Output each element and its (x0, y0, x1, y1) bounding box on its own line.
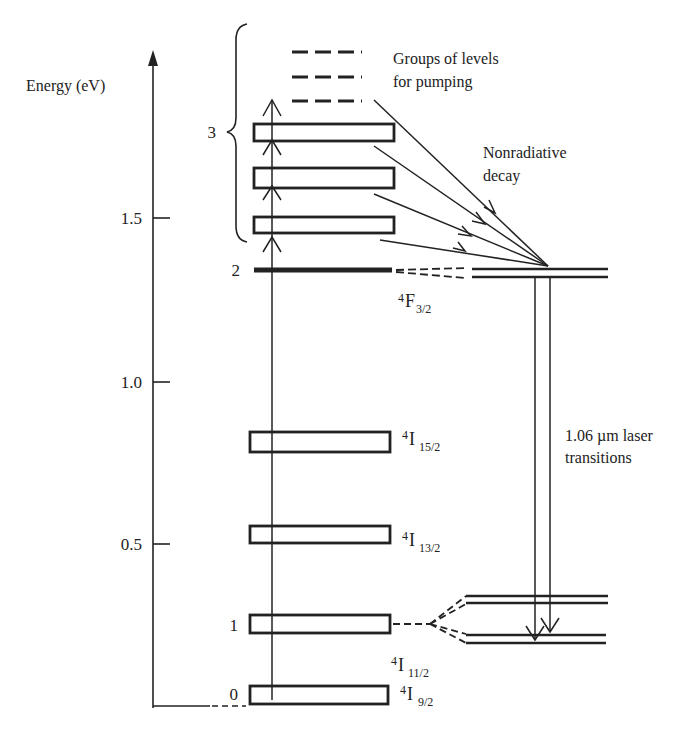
level-1-band (250, 615, 390, 633)
level-i13-sub: 13/2 (419, 541, 440, 555)
level-1-split-dashes (393, 596, 466, 643)
level-1-number: 1 (230, 616, 239, 635)
level-2-split-lines (472, 269, 608, 277)
level-2-term-letter: F (405, 291, 415, 311)
level-1-sub: 11/2 (408, 666, 429, 680)
level-i13-sup: 4 (402, 529, 408, 543)
laser-label-line1: 1.06 µm laser (565, 427, 654, 445)
level-0-sub: 9/2 (418, 695, 433, 709)
laser-label-line2: transitions (565, 449, 632, 466)
energy-axis (148, 50, 246, 708)
decay-label-line1: Nonradiative (483, 144, 567, 161)
level-0-letter: I (407, 684, 413, 704)
energy-level-diagram: Energy (eV) 1.5 1.0 0.5 3 Groups of leve… (0, 0, 700, 734)
level-0-number: 0 (230, 685, 239, 704)
level-i15-letter: I (409, 429, 415, 449)
level-2-number: 2 (232, 261, 241, 280)
level-2-split-dashes (396, 268, 466, 278)
axis-arrow-icon (148, 50, 158, 66)
level-i13-letter: I (409, 530, 415, 550)
level-i15-sub: 15/2 (419, 440, 440, 454)
axis-label: Energy (eV) (26, 77, 105, 95)
laser-transition-arrows (526, 278, 559, 640)
level-0-band (250, 686, 388, 704)
level-i15-sup: 4 (402, 428, 408, 442)
level-2-term-sup: 4 (398, 291, 404, 305)
tick-label-0-5: 0.5 (121, 535, 142, 554)
level-2-term-sub: 3/2 (416, 302, 431, 316)
level-1-sup: 4 (391, 654, 397, 668)
decay-label-line2: decay (483, 167, 520, 185)
tick-label-1-0: 1.0 (121, 373, 142, 392)
pump-arrow (263, 100, 281, 700)
pumping-label-line1: Groups of levels (393, 50, 499, 68)
level-i15-band (250, 432, 390, 452)
level-3-bands (254, 124, 394, 233)
tick-label-1-5: 1.5 (121, 209, 142, 228)
pumping-label-line2: for pumping (393, 73, 473, 91)
level-1-letter: I (398, 655, 404, 675)
level-3-brace (227, 24, 247, 242)
level-3-number: 3 (208, 123, 217, 142)
nonradiative-decay-arrows (374, 100, 548, 266)
level-0-sup: 4 (400, 683, 406, 697)
level-i13-band (250, 526, 390, 543)
pump-dashed-levels (292, 52, 362, 101)
